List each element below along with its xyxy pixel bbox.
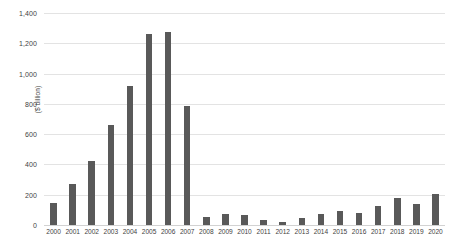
bar xyxy=(337,211,344,225)
x-axis-tick-label: 2012 xyxy=(275,228,289,235)
bar xyxy=(50,203,57,225)
figure-caption-partial xyxy=(6,244,126,252)
bar xyxy=(184,106,191,225)
bar xyxy=(222,214,229,225)
bar xyxy=(88,161,95,225)
x-axis-tick-label: 2002 xyxy=(85,228,99,235)
x-axis-tick-label: 2016 xyxy=(352,228,366,235)
x-axis-tick-label: 2007 xyxy=(180,228,194,235)
y-axis-tick-label: 200 xyxy=(25,191,37,198)
y-axis-tick-label: 400 xyxy=(25,161,37,168)
x-axis-tick-label: 2006 xyxy=(161,228,175,235)
x-axis-tick-label: 2004 xyxy=(123,228,137,235)
x-axis-tick-label: 2011 xyxy=(257,228,271,235)
x-axis-tick-label: 2003 xyxy=(104,228,118,235)
x-axis-tick-label: 2009 xyxy=(218,228,232,235)
x-axis-tick-label: 2014 xyxy=(314,228,328,235)
x-axis-tick-label: 2017 xyxy=(371,228,385,235)
x-axis-tick-label: 2020 xyxy=(428,228,442,235)
bar xyxy=(127,86,134,225)
x-axis-tick-label: 2019 xyxy=(409,228,423,235)
bar xyxy=(413,204,420,225)
x-axis-tick-label: 2008 xyxy=(199,228,213,235)
bar xyxy=(165,32,172,225)
y-axis-tick-label: 600 xyxy=(25,131,37,138)
bar xyxy=(394,198,401,225)
bar xyxy=(356,213,363,225)
x-axis-tick-label: 2018 xyxy=(390,228,404,235)
y-axis-tick-label: 1,400 xyxy=(19,10,37,17)
y-axis-tick-label: 1,000 xyxy=(19,70,37,77)
gridline xyxy=(44,225,445,226)
y-axis-tick-label: 800 xyxy=(25,100,37,107)
x-axis-tick-label: 2000 xyxy=(46,228,60,235)
y-axis-tick-labels: 02004006008001,0001,2001,400 xyxy=(0,13,40,225)
bar xyxy=(299,218,306,225)
bar xyxy=(241,215,248,225)
x-axis-tick-label: 2005 xyxy=(142,228,156,235)
x-axis-tick-label: 2010 xyxy=(237,228,251,235)
bar xyxy=(279,222,286,225)
bar xyxy=(146,34,153,225)
bar xyxy=(108,125,115,225)
bar xyxy=(203,217,210,225)
bar-chart: ($ billion) 02004006008001,0001,2001,400… xyxy=(0,0,449,252)
plot-area xyxy=(44,13,445,225)
x-axis-tick-label: 2001 xyxy=(65,228,79,235)
bar xyxy=(318,214,325,225)
bar xyxy=(260,220,267,225)
bar xyxy=(432,194,439,225)
x-axis-tick-label: 2015 xyxy=(333,228,347,235)
bar-series xyxy=(44,13,445,225)
y-axis-tick-label: 1,200 xyxy=(19,40,37,47)
x-axis-tick-labels: 2000200120022003200420052006200720082009… xyxy=(44,228,445,242)
bar xyxy=(69,184,76,225)
x-axis-tick-label: 2013 xyxy=(295,228,309,235)
y-axis-tick-label: 0 xyxy=(33,222,37,229)
bar xyxy=(375,206,382,225)
